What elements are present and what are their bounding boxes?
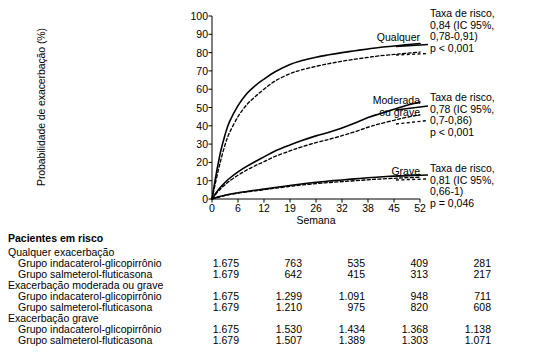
risk-table-title: Pacientes em risco <box>8 232 103 244</box>
risk-row-label-severe-sal: Grupo salmeterol-fluticasona <box>18 335 152 346</box>
y-axis-ticks <box>209 16 213 199</box>
risk-cell: 1.389 <box>321 335 365 346</box>
risk-cell: 1.507 <box>258 335 302 346</box>
risk-cell: 1.071 <box>447 335 491 346</box>
chart-svg <box>0 0 556 232</box>
risk-cell: 608 <box>447 302 491 313</box>
risk-cell: 975 <box>321 302 365 313</box>
risk-cell: 217 <box>447 269 491 280</box>
legend-line-grave-solid <box>396 175 428 176</box>
patients-at-risk-table: Pacientes em risco Qualquer exacerbação … <box>0 232 556 361</box>
risk-cell: 313 <box>384 269 428 280</box>
kaplan-meier-figure: Probabilidade de exacerbação (%) Semana … <box>0 0 556 361</box>
risk-cell: 1.210 <box>258 302 302 313</box>
risk-cell: 1.679 <box>195 302 239 313</box>
chart-plot-region: Probabilidade de exacerbação (%) Semana … <box>0 0 556 232</box>
curve <box>212 177 420 199</box>
risk-cell: 415 <box>321 269 365 280</box>
risk-cell: 1.679 <box>195 269 239 280</box>
curve <box>212 102 420 199</box>
risk-cell: 1.303 <box>384 335 428 346</box>
risk-cell: 642 <box>258 269 302 280</box>
legend-line-moderada-dashed <box>396 121 428 125</box>
risk-cell: 820 <box>384 302 428 313</box>
curve <box>212 115 420 199</box>
legend-line-grave-dashed <box>396 179 428 180</box>
x-axis-ticks <box>212 199 420 203</box>
chart-curves <box>212 43 420 199</box>
risk-cell: 1.679 <box>195 335 239 346</box>
